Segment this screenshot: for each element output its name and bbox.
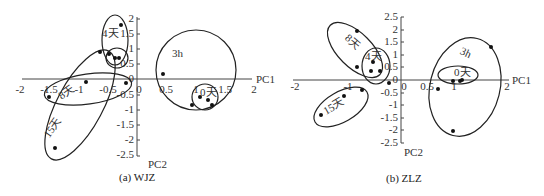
- y-tick-label: -2: [389, 123, 398, 135]
- group-ellipse-3h: [156, 30, 236, 110]
- chart-caption: (b) ZLZ: [386, 172, 422, 185]
- x-tick-label: -2: [290, 80, 299, 92]
- y-tick-label: -1.5: [381, 111, 399, 123]
- x-tick-label: 0: [401, 80, 407, 92]
- y-tick-label: 2: [393, 23, 399, 35]
- y-tick-label: 2.5: [384, 10, 398, 22]
- y-axis-label: PC2: [148, 158, 167, 170]
- x-tick-label: 0: [136, 83, 142, 95]
- chart-zlz: 2.5 2 1.5 1 0.5 0 -0.5 -1 -1.5 -2 -2.5 -…: [290, 10, 531, 185]
- group-label: 15天: [41, 115, 63, 140]
- y-tick-label: -0.5: [117, 88, 135, 100]
- group-label: 8天: [56, 82, 76, 101]
- x-tick-label: -1: [74, 83, 83, 95]
- y-tick-label: -2.5: [381, 136, 399, 148]
- y-tick-label: -1: [125, 103, 134, 115]
- group-label: 15天: [321, 95, 346, 116]
- y-tick-label: 2: [129, 12, 135, 24]
- group-label: 0天: [454, 66, 471, 78]
- x-tick-label: -2: [15, 83, 24, 95]
- y-tick-label: 1.5: [384, 35, 398, 47]
- group-label: 4天: [102, 27, 119, 39]
- y-tick-label: 1: [129, 42, 135, 54]
- group-label: 8天: [343, 31, 363, 51]
- group-label: 0天: [200, 86, 217, 98]
- group-label: 3h: [172, 47, 184, 59]
- x-tick-label: -1: [343, 80, 352, 92]
- group-label: 3h: [458, 45, 473, 61]
- y-tick-label: 0.5: [384, 60, 398, 72]
- y-tick-label: -1.5: [117, 118, 135, 130]
- x-tick-label: -0.5: [99, 83, 117, 95]
- y-tick-label: -2: [125, 133, 134, 145]
- x-tick-label: 0.5: [420, 80, 434, 92]
- pca-figure: 2 1.5 1 0.5 0 -0.5 -1 -1.5 -2 -2.5 -2 -1…: [0, 0, 544, 196]
- y-axis-label: PC2: [404, 146, 423, 158]
- y-tick-label: 1: [393, 48, 399, 60]
- x-axis-label: PC1: [512, 74, 531, 86]
- y-tick-label: 0: [393, 73, 399, 85]
- chart-wjz: 2 1.5 1 0.5 0 -0.5 -1 -1.5 -2 -2.5 -2 -1…: [15, 12, 275, 184]
- x-tick-label: -1.5: [40, 83, 58, 95]
- y-tick-label: -2.5: [117, 148, 135, 160]
- y-tick-label: -0.5: [381, 86, 399, 98]
- chart-caption: (a) WJZ: [119, 171, 155, 184]
- x-axis-label: PC1: [256, 73, 275, 85]
- y-tick-label: -1: [389, 98, 398, 110]
- x-tick-label: 2: [504, 80, 510, 92]
- x-tick-label: 1.5: [218, 83, 232, 95]
